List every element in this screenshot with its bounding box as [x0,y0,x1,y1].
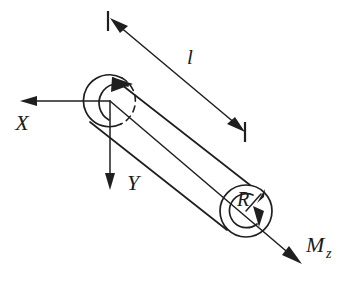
cylinder-top-edge [113,78,250,185]
left-torque-arc [99,77,133,120]
axis-x [20,96,110,106]
torsion-shaft-figure: l X Y R M z [0,0,344,287]
axis-x-arrowhead [20,96,37,106]
cylinder-body [90,78,250,230]
axis-y-label: Y [127,170,142,195]
axis-y-arrowhead [105,173,115,190]
axis-x-label: X [14,110,30,135]
left-torque-arrowhead [111,77,133,92]
length-label: l [187,45,193,69]
radius-label: R [236,188,249,210]
length-dimension [108,11,245,142]
dimension-line [119,26,236,124]
diagram-canvas: l X Y R M z [0,0,344,287]
moment-label-group: M z [305,232,332,261]
moment-subscript-label: z [325,246,332,261]
axis-y [105,101,115,190]
moment-label: M [305,232,326,257]
moment-axis-arrowhead [282,246,302,264]
